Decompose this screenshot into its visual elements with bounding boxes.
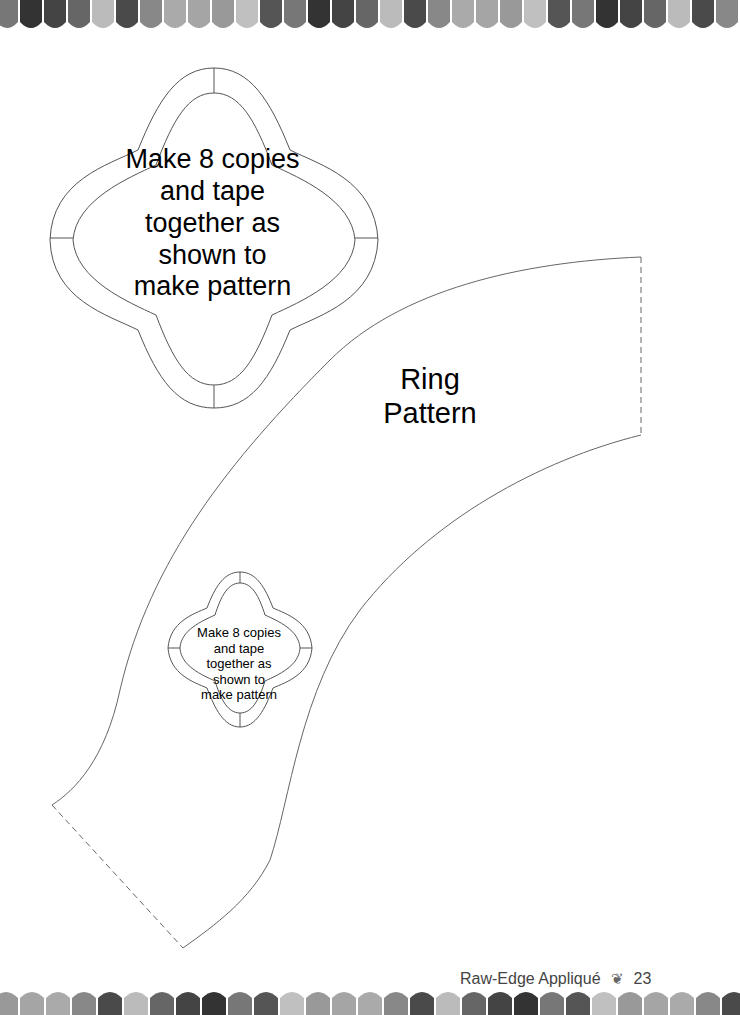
note-line: together as bbox=[100, 208, 325, 240]
ring-segment-outline bbox=[52, 257, 641, 948]
book-title: Raw-Edge Appliqué bbox=[460, 970, 601, 988]
title-line: Ring bbox=[370, 362, 490, 396]
note-line: together as bbox=[185, 656, 293, 672]
pattern-title: Ring Pattern bbox=[370, 362, 490, 430]
page-footer: Raw-Edge Appliqué ❦ 23 bbox=[460, 970, 651, 988]
page-number: 23 bbox=[634, 970, 652, 988]
note-line: Make 8 copies bbox=[100, 144, 325, 176]
note-line: make pattern bbox=[185, 687, 293, 703]
note-line: make pattern bbox=[100, 271, 325, 303]
note-line: shown to bbox=[100, 240, 325, 272]
title-line: Pattern bbox=[370, 396, 490, 430]
ornament-icon: ❦ bbox=[611, 970, 624, 988]
note-line: shown to bbox=[185, 672, 293, 688]
note-line: and tape bbox=[185, 641, 293, 657]
note-line: and tape bbox=[100, 176, 325, 208]
instruction-note-large: Make 8 copies and tape together as shown… bbox=[100, 144, 325, 303]
fabric-border-bottom bbox=[0, 988, 740, 1015]
instruction-note-small: Make 8 copies and tape together as shown… bbox=[185, 625, 293, 703]
note-line: Make 8 copies bbox=[185, 625, 293, 641]
